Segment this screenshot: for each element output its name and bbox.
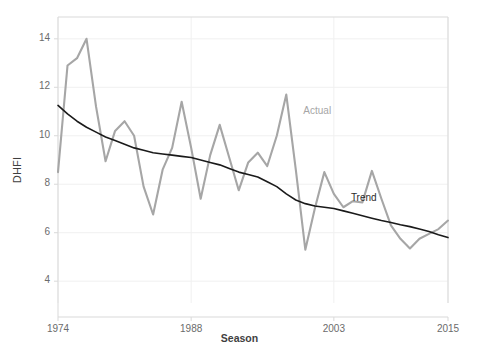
y-axis-title: DHFI [6,130,28,210]
series-label-actual: Actual [303,105,331,116]
series-line-actual [58,39,448,250]
x-tick-label: 2003 [312,323,356,334]
y-axis-title-text: DHFI [11,157,23,183]
series-paths [58,39,448,250]
y-tick-label: 4 [28,274,50,285]
y-tick-label: 12 [28,80,50,91]
y-tick-label: 10 [28,129,50,140]
gridlines [58,17,448,303]
series-line-trend [58,105,448,237]
axis-lines [54,17,448,321]
series-label-trend: Trend [351,192,377,203]
chart-plot-svg [0,0,479,360]
y-tick-label: 6 [28,226,50,237]
x-tick-label: 1988 [169,323,213,334]
y-tick-label: 8 [28,177,50,188]
x-tick-label: 1974 [36,323,80,334]
x-tick-label: 2015 [426,323,470,334]
chart-container: DHFI Season 468101214 1974198820032015 A… [0,0,479,360]
y-tick-label: 14 [28,32,50,43]
